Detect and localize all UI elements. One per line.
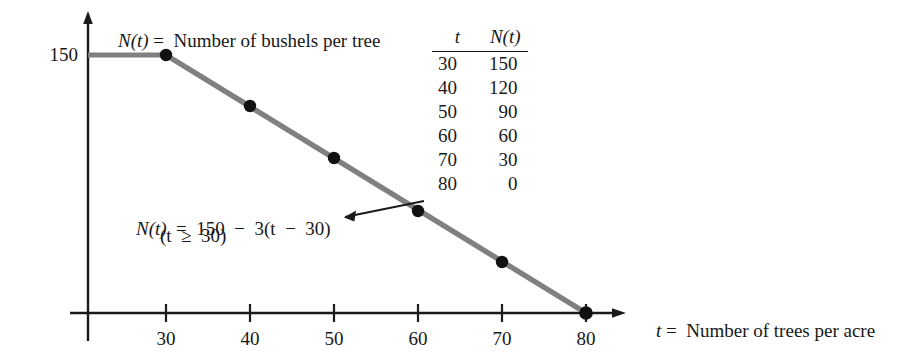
x-tick-label-30: 30 [136,329,196,348]
table-header-row: t N(t) [432,26,528,52]
table-row: 30 150 [432,52,528,77]
table-cell-t: 70 [432,148,483,172]
y-axis-equals: = [149,30,174,51]
table-cell-nt: 150 [483,52,528,77]
x-axis-equals: = [661,320,686,341]
table-header-t: t [432,26,483,52]
table-cell-t: 80 [432,172,483,196]
x-axis-title: t = Number of trees per acre [637,302,875,359]
equation-domain-condition: (t ≥ 30) [160,226,226,245]
table-cell-nt: 30 [483,148,528,172]
y-axis [83,11,93,341]
table-cell-t: 40 [432,76,483,100]
table-cell-t: 30 [432,52,483,77]
y-axis-description: Number of bushels per tree [174,30,381,51]
table-row: 70 30 [432,148,528,172]
x-tick-label-60: 60 [388,329,448,348]
table-cell-nt: 90 [483,100,528,124]
value-table-grid: t N(t) 30 150 40 120 50 90 60 [432,26,528,196]
table-cell-t: 60 [432,124,483,148]
y-axis-title: N(t) = Number of bushels per tree [99,12,380,69]
table-row: 50 90 [432,100,528,124]
table-header-nt: N(t) [483,26,528,52]
x-tick-label-70: 70 [472,329,532,348]
figure-graph-bushels-per-tree: N(t) = Number of bushels per tree 150 t … [0,0,921,363]
x-axis-description: Number of trees per acre [686,320,875,341]
table-cell-t: 50 [432,100,483,124]
value-table-head: t N(t) [432,26,528,52]
table-cell-nt: 60 [483,124,528,148]
x-tick-label-50: 50 [304,329,364,348]
table-row: 80 0 [432,172,528,196]
table-row: 60 60 [432,124,528,148]
value-table: t N(t) 30 150 40 120 50 90 60 [432,26,528,196]
table-row: 40 120 [432,76,528,100]
y-axis-symbol: N(t) [118,30,149,51]
value-table-body: 30 150 40 120 50 90 60 60 70 30 [432,52,528,197]
x-tick-label-40: 40 [220,329,280,348]
x-axis [70,308,626,318]
y-tick-label-150: 150 [14,45,78,64]
x-tick-label-80: 80 [556,329,616,348]
table-cell-nt: 120 [483,76,528,100]
table-cell-nt: 0 [483,172,528,196]
